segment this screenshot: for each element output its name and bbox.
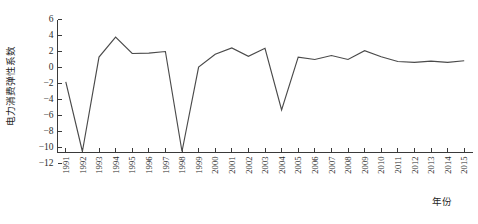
- x-tick-label: 2014: [443, 156, 453, 174]
- y-tick-label: 2: [49, 46, 54, 56]
- x-tick-label: 2001: [227, 157, 237, 174]
- x-tick-label: 2007: [327, 156, 337, 174]
- x-tick-label: 2011: [393, 157, 403, 174]
- y-tick-group: 6420−2−4−6−8−10−12: [39, 14, 62, 168]
- y-tick-label: −12: [39, 158, 54, 168]
- x-tick-label: 1998: [177, 157, 187, 174]
- figure-container: 6420−2−4−6−8−10−12 199119921993199419951…: [0, 0, 478, 224]
- x-tick-label: 2010: [376, 157, 386, 174]
- elasticity-series-line: [66, 37, 464, 151]
- y-tick-label: −8: [43, 126, 53, 136]
- x-tick-label: 2006: [310, 156, 320, 174]
- x-tick-label: 1999: [194, 157, 204, 174]
- y-tick-label: 0: [49, 62, 54, 72]
- x-tick-group: 1991199219931994199519961997199819992000…: [61, 148, 469, 174]
- x-tick-label: 1996: [144, 156, 154, 174]
- x-tick-label: 2008: [343, 157, 353, 174]
- y-tick-label: −10: [39, 142, 54, 152]
- x-tick-label: 2015: [459, 157, 469, 174]
- x-tick-label: 1997: [161, 156, 171, 174]
- figure-caption-strip: [0, 217, 478, 224]
- electricity-elasticity-line-chart: 6420−2−4−6−8−10−12 199119921993199419951…: [0, 0, 478, 224]
- x-tick-label: 2009: [360, 157, 370, 174]
- y-tick-label: −4: [43, 94, 53, 104]
- x-tick-label: 2003: [260, 157, 270, 174]
- x-tick-label: 2012: [410, 157, 420, 174]
- y-tick-label: −2: [43, 78, 53, 88]
- x-tick-label: 2013: [426, 157, 436, 174]
- x-tick-label: 1992: [78, 157, 88, 174]
- y-tick-label: −6: [43, 110, 53, 120]
- x-tick-label: 2002: [244, 157, 254, 174]
- axes-group: [58, 20, 473, 153]
- x-axis-title: 年份: [432, 196, 452, 207]
- x-tick-label: 2005: [293, 157, 303, 174]
- x-tick-label: 2004: [277, 156, 287, 174]
- x-tick-label: 2000: [210, 157, 220, 174]
- x-tick-label: 1994: [111, 156, 121, 174]
- x-tick-label: 1993: [94, 157, 104, 174]
- x-tick-label: 1995: [127, 157, 137, 174]
- y-tick-label: 6: [49, 14, 54, 24]
- y-tick-label: 4: [49, 30, 54, 40]
- x-tick-label: 1991: [61, 157, 71, 174]
- y-axis-title: 电力消费弹性系数: [5, 46, 16, 126]
